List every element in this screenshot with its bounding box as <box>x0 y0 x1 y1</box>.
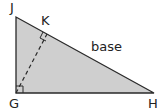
triangle-jgh <box>16 17 154 93</box>
vertex-label-k: K <box>41 13 50 28</box>
vertex-label-g: G <box>9 96 19 111</box>
side-label-base: base <box>91 39 122 54</box>
vertex-label-h: H <box>148 96 158 111</box>
vertex-label-j: J <box>9 0 14 15</box>
triangle-diagram: J K G H base <box>0 0 166 112</box>
